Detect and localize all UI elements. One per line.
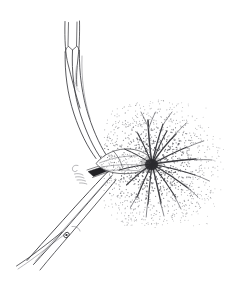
stipple-dot xyxy=(149,147,150,148)
stipple-dot xyxy=(176,149,177,150)
stipple-dot xyxy=(147,145,148,146)
stipple-dot xyxy=(199,224,200,225)
stipple-dot xyxy=(155,141,156,142)
stipple-dot xyxy=(138,206,139,207)
stipple-dot xyxy=(191,186,192,187)
stipple-dot xyxy=(201,160,202,161)
stipple-dot xyxy=(201,168,202,169)
stipple-dot xyxy=(173,220,174,221)
stipple-dot xyxy=(171,215,172,216)
stipple-dot xyxy=(150,173,151,174)
stipple-dot xyxy=(217,166,218,167)
stipple-dot xyxy=(151,224,152,225)
stipple-dot xyxy=(150,179,151,180)
stipple-dot xyxy=(120,181,121,182)
stipple-dot xyxy=(104,161,105,162)
stipple-dot xyxy=(148,157,149,158)
stipple-dot xyxy=(180,165,181,166)
stipple-dot xyxy=(159,212,160,213)
stipple-dot xyxy=(111,113,112,114)
stipple-dot xyxy=(131,165,132,166)
stipple-dot xyxy=(104,207,105,208)
stipple-dot xyxy=(185,125,186,126)
stipple-dot xyxy=(175,194,176,195)
stipple-dot xyxy=(162,135,163,136)
stipple-dot xyxy=(196,129,197,130)
stipple-dot xyxy=(124,215,125,216)
stipple-dot xyxy=(192,116,193,117)
stipple-dot xyxy=(113,194,114,195)
stipple-dot xyxy=(131,176,132,177)
stipple-dot xyxy=(188,163,189,164)
stipple-dot xyxy=(143,106,144,107)
stipple-dot xyxy=(140,161,141,162)
stipple-dot xyxy=(119,209,120,210)
stipple-dot xyxy=(146,185,147,186)
stipple-dot xyxy=(178,186,179,187)
stipple-dot xyxy=(187,150,188,151)
stipple-dot xyxy=(129,124,130,125)
stipple-dot xyxy=(164,165,165,166)
stipple-dot xyxy=(164,189,165,190)
stipple-dot xyxy=(131,220,132,221)
illustration-canvas: grass culm node with expanding infloresc… xyxy=(0,0,227,297)
stipple-dot xyxy=(189,208,190,209)
stipple-dot xyxy=(121,144,122,145)
stipple-dot xyxy=(153,205,154,206)
stipple-dot xyxy=(187,148,188,149)
stipple-dot xyxy=(169,140,170,141)
stipple-dot xyxy=(111,165,112,166)
stipple-dot xyxy=(127,155,128,156)
stipple-dot xyxy=(213,136,214,137)
stipple-dot xyxy=(135,220,136,221)
stipple-dot xyxy=(138,124,139,125)
stipple-dot xyxy=(136,193,137,194)
stipple-dot xyxy=(118,122,119,123)
stipple-dot xyxy=(112,125,113,126)
stipple-dot xyxy=(123,222,124,223)
stipple-dot xyxy=(109,173,110,174)
stipple-dot xyxy=(125,132,126,133)
stipple-dot xyxy=(168,206,169,207)
stipple-dot xyxy=(190,140,191,141)
stipple-dot xyxy=(152,217,153,218)
stipple-dot xyxy=(137,175,138,176)
stipple-dot xyxy=(144,168,145,169)
stipple-dot xyxy=(185,140,186,141)
stipple-dot xyxy=(114,162,115,163)
stipple-dot xyxy=(168,211,169,212)
stipple-dot xyxy=(115,159,116,160)
stipple-dot xyxy=(150,204,151,205)
stipple-dot xyxy=(140,169,141,170)
stipple-dot xyxy=(135,178,136,179)
stipple-dot xyxy=(218,147,219,148)
stipple-dot xyxy=(143,141,144,142)
stipple-dot xyxy=(126,169,127,170)
stipple-dot xyxy=(191,181,192,182)
stipple-dot xyxy=(191,154,192,155)
stipple-dot xyxy=(128,169,129,170)
stipple-dot xyxy=(172,194,173,195)
stipple-dot xyxy=(159,149,160,150)
stipple-dot xyxy=(200,165,201,166)
stipple-dot xyxy=(196,202,197,203)
stipple-dot xyxy=(119,170,120,171)
stipple-dot xyxy=(142,189,143,190)
stipple-dot xyxy=(197,147,198,148)
stipple-dot xyxy=(125,162,126,163)
stipple-dot xyxy=(180,125,181,126)
stipple-dot xyxy=(170,132,171,133)
stipple-dot xyxy=(109,193,110,194)
stipple-dot xyxy=(120,179,121,180)
stipple-dot xyxy=(129,177,130,178)
stipple-dot xyxy=(127,192,128,193)
stipple-dot xyxy=(143,113,144,114)
stipple-dot xyxy=(167,139,168,140)
stipple-dot xyxy=(146,163,147,164)
stipple-dot xyxy=(142,193,143,194)
stipple-dot xyxy=(114,129,115,130)
stipple-dot xyxy=(153,120,154,121)
stipple-dot xyxy=(132,117,133,118)
stipple-dot xyxy=(214,160,215,161)
stipple-dot xyxy=(123,178,124,179)
